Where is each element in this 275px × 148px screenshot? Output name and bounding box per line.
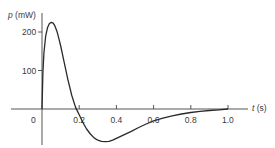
x-axis-variable: t	[252, 103, 254, 113]
y-tick-label: 100	[22, 67, 36, 76]
y-axis-unit: (mW)	[15, 10, 36, 20]
power-chart	[0, 0, 275, 148]
y-ticks	[38, 32, 42, 71]
x-axis-label: t (s)	[252, 104, 267, 113]
x-tick-label: 0.4	[110, 116, 122, 125]
x-tick-label: 1.0	[222, 116, 234, 125]
y-tick-label: 200	[22, 28, 36, 37]
x-tick-label: 0.2	[73, 116, 85, 125]
y-axis-variable: p	[8, 10, 13, 20]
origin-label: 0	[31, 116, 36, 125]
power-curve	[42, 22, 228, 141]
x-ticks	[79, 105, 228, 109]
x-tick-label: 0.6	[148, 116, 160, 125]
x-axis-unit: (s)	[257, 103, 267, 113]
x-tick-label: 0.8	[185, 116, 197, 125]
y-axis-label: p (mW)	[8, 11, 36, 20]
